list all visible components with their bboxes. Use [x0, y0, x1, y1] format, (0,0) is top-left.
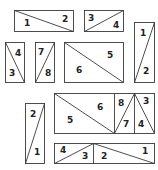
piece-number-label: 1 [24, 18, 30, 28]
piece-number-label: 8 [118, 98, 124, 108]
piece-number-label: 4 [15, 48, 21, 58]
division-line [55, 94, 115, 134]
piece-number-label: 7 [38, 47, 44, 57]
piece-number-label: 3 [88, 13, 94, 23]
piece-number-label: 1 [34, 147, 40, 157]
shape-d: 78 [36, 43, 55, 83]
diagram-svg: 123443785612216587344321 [0, 0, 158, 170]
shape-b: 34 [85, 11, 124, 32]
piece-number-label: 2 [143, 66, 149, 76]
piece-number-label: 2 [101, 151, 107, 161]
piece-number-label: 4 [138, 119, 144, 129]
piece-number-label: 3 [143, 96, 149, 106]
piece-number-label: 7 [123, 119, 129, 129]
shape-g: 21 [26, 104, 45, 164]
shape-e: 56 [65, 43, 124, 83]
piece-number-label: 6 [76, 65, 82, 75]
shape-f: 12 [135, 23, 155, 83]
shape-c: 43 [6, 43, 25, 83]
division-line [65, 43, 124, 83]
piece-number-label: 1 [142, 146, 148, 156]
piece-number-label: 2 [30, 109, 36, 119]
piece-number-label: 3 [9, 68, 15, 78]
piece-number-label: 4 [60, 145, 66, 155]
piece-number-label: 1 [140, 28, 146, 38]
piece-number-label: 2 [62, 14, 68, 24]
tangram-diagram-canvas: 123443785612216587344321 [0, 0, 158, 170]
shape-a: 12 [15, 11, 74, 32]
piece-number-label: 5 [107, 50, 113, 60]
piece-number-label: 4 [113, 20, 119, 30]
piece-number-label: 8 [45, 68, 51, 78]
piece-number-label: 3 [82, 151, 88, 161]
piece-number-label: 5 [67, 115, 73, 125]
piece-number-label: 6 [97, 102, 103, 112]
shape-i: 4321 [55, 144, 155, 164]
shape-h: 658734 [55, 94, 155, 134]
